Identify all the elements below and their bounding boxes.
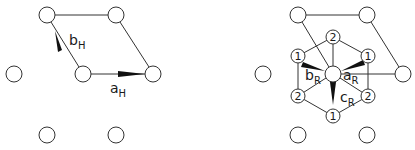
left-panel <box>51 15 149 74</box>
label-aR: aR <box>343 67 359 86</box>
label-cR: cR <box>340 89 355 108</box>
lattice-diagram: bH aH 2 1 1 2 2 1 bR <box>0 0 415 150</box>
svg-text:1: 1 <box>330 110 337 123</box>
site-upper-right: 1 <box>361 49 375 63</box>
label-bH: bH <box>69 32 85 51</box>
site-lower-right: 2 <box>361 89 375 103</box>
vector-cR-arrow <box>330 82 336 105</box>
svg-text:1: 1 <box>295 50 302 63</box>
site-lower-left: 2 <box>291 89 305 103</box>
label-aH: aH <box>110 80 126 99</box>
svg-text:2: 2 <box>330 31 337 44</box>
left-lattice-points <box>6 7 161 143</box>
site-bottom: 1 <box>326 109 340 123</box>
site-top: 2 <box>326 30 340 44</box>
svg-text:2: 2 <box>295 90 302 103</box>
vector-aH-arrow <box>118 71 145 77</box>
svg-text:2: 2 <box>365 90 372 103</box>
site-upper-left: 1 <box>291 49 305 63</box>
svg-text:1: 1 <box>365 50 372 63</box>
